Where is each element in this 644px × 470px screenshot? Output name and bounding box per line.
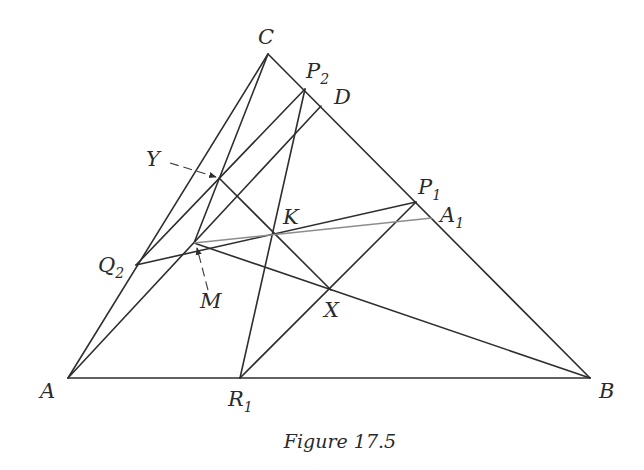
label-P1: P1 — [417, 175, 441, 203]
line-C-M — [194, 54, 268, 243]
side-CA — [68, 54, 268, 378]
label-M: M — [199, 289, 222, 313]
label-X: X — [322, 298, 340, 322]
line-M-A1 — [194, 218, 432, 243]
label-C: C — [258, 25, 274, 49]
line-Q2-P1 — [136, 202, 416, 265]
label-B: B — [598, 379, 614, 403]
line-M-B — [194, 243, 590, 378]
label-Q2: Q2 — [98, 253, 124, 281]
label-A: A — [38, 379, 55, 403]
label-K: K — [282, 205, 300, 229]
label-R1: R1 — [227, 387, 253, 415]
geometry-figure: C P2 D Y P1 A1 K Q2 M X A R1 B Figure 17… — [0, 0, 644, 470]
figure-caption: Figure 17.5 — [283, 430, 396, 452]
label-Y: Y — [146, 147, 162, 171]
label-P2: P2 — [305, 59, 329, 87]
label-D: D — [333, 85, 351, 109]
side-BC — [268, 54, 590, 378]
callout-arrow-M — [197, 248, 208, 290]
label-A1: A1 — [438, 203, 464, 231]
